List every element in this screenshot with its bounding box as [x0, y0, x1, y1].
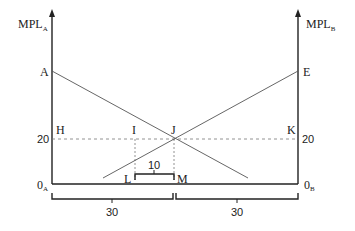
point-e-label: E — [303, 65, 310, 79]
left-axis-arrow-icon — [49, 9, 55, 17]
right-bracket-label: 30 — [231, 206, 243, 218]
point-i-label: I — [132, 123, 136, 137]
lm-bracket — [135, 174, 174, 180]
right-origin-label: 0B — [304, 178, 315, 193]
left-axis-label: MPLA — [18, 17, 48, 33]
point-a-label: A — [40, 65, 49, 79]
point-l-label: L — [124, 172, 131, 186]
right-bottom-bracket — [176, 193, 298, 199]
right-20-label: 20 — [302, 133, 314, 145]
labor-market-diagram: MPLA MPLB A E H I J K L M 20 20 10 0A 0B… — [0, 0, 355, 231]
left-bracket-label: 30 — [106, 206, 118, 218]
point-k-label: K — [287, 123, 296, 137]
left-origin-label: 0A — [37, 178, 48, 193]
right-axis-label: MPLB — [306, 17, 336, 33]
right-axis-arrow-icon — [295, 9, 301, 17]
left-bottom-bracket — [52, 193, 173, 199]
point-h-label: H — [56, 123, 65, 137]
point-j-label: J — [171, 123, 176, 137]
lm-width-label: 10 — [148, 159, 160, 171]
point-m-label: M — [177, 172, 188, 186]
left-20-label: 20 — [37, 133, 49, 145]
